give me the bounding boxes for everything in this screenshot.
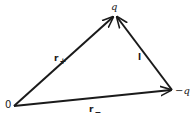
r-minus-label: r− [89, 99, 101, 115]
r-plus-main: r [54, 53, 58, 63]
l-label: l [138, 47, 141, 63]
r-minus-sub: − [94, 108, 101, 117]
r-minus-main: r [89, 104, 93, 114]
vector-l-arrow [117, 17, 172, 90]
charge-minus-label: −q [175, 86, 190, 96]
l-main: l [138, 52, 141, 62]
r-plus-sub: + [59, 57, 66, 66]
r-plus-label: r+ [54, 48, 66, 64]
origin-label: 0 [5, 100, 11, 110]
charge-plus-label: q [111, 2, 117, 12]
